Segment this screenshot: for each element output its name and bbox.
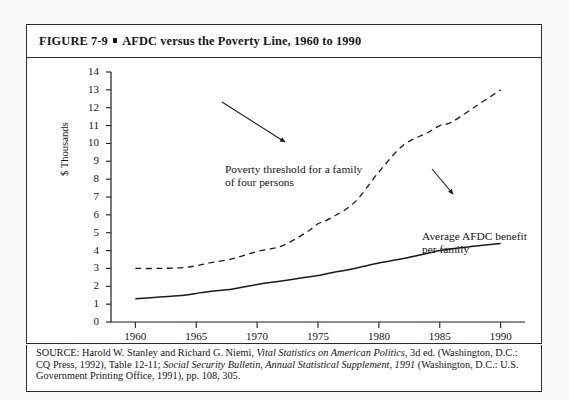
chart-area: $ Thousands 01234567891011121314 1960196… <box>27 58 541 343</box>
leader-poverty-annotation <box>222 102 285 142</box>
x-tick-label: 1965 <box>174 330 218 342</box>
annotation-afdc-line2: per family <box>422 243 527 256</box>
figure-container: FIGURE 7-9AFDC versus the Poverty Line, … <box>26 24 542 344</box>
annotation-afdc-line1: Average AFDC benefit <box>422 230 527 243</box>
figure-title-bar: FIGURE 7-9AFDC versus the Poverty Line, … <box>27 25 541 58</box>
y-tick-label: 9 <box>81 154 99 166</box>
figure-number: FIGURE 7-9 <box>39 34 108 48</box>
y-tick-label: 8 <box>81 172 99 184</box>
x-tick-label: 1980 <box>357 330 401 342</box>
source-line1-prefix: SOURCE: Harold W. Stanley and Richard G.… <box>36 347 257 358</box>
page-title: FIGURE 7-9AFDC versus the Poverty Line, … <box>39 34 361 49</box>
y-tick-label: 6 <box>81 208 99 220</box>
y-tick-label: 14 <box>81 65 99 77</box>
y-tick-label: 7 <box>81 190 99 202</box>
x-tick-label: 1970 <box>235 330 279 342</box>
y-tick-label: 4 <box>81 244 99 256</box>
source-line2-italic: Social Security Bulletin, Annual Statist… <box>163 359 339 370</box>
annotation-poverty: Poverty threshold for a family of four p… <box>225 163 362 190</box>
y-tick-label: 0 <box>81 315 99 327</box>
y-tick-label: 13 <box>81 83 99 95</box>
axes <box>111 72 525 322</box>
annotation-afdc: Average AFDC benefit per family <box>422 230 527 257</box>
y-axis-title: $ Thousands <box>59 160 70 176</box>
y-tick-label: 12 <box>81 101 99 113</box>
y-tick-label: 10 <box>81 136 99 148</box>
source-line1-italic: Vital Statistics on American Politics, <box>257 347 408 358</box>
y-tick-label: 3 <box>81 261 99 273</box>
x-tick-label: 1990 <box>479 330 523 342</box>
annotation-poverty-line2: of four persons <box>225 176 362 189</box>
y-tick-label: 11 <box>81 119 99 131</box>
leader-afdc-annotation <box>432 169 453 194</box>
y-tick-label: 2 <box>81 279 99 291</box>
x-tick-label: 1985 <box>418 330 462 342</box>
y-tick-label: 5 <box>81 226 99 238</box>
data-series <box>135 90 500 299</box>
annotation-poverty-line1: Poverty threshold for a family <box>225 163 362 176</box>
tick-marks <box>106 72 501 328</box>
source-line1-suffix: 3d ed. <box>407 347 435 358</box>
source-line3-italic: Supplement, 1991 <box>341 359 415 370</box>
x-tick-label: 1960 <box>113 330 157 342</box>
x-tick-label: 1975 <box>296 330 340 342</box>
square-bullet-icon <box>113 38 118 43</box>
y-tick-label: 1 <box>81 297 99 309</box>
chart-plot <box>27 58 543 345</box>
page-background: FIGURE 7-9AFDC versus the Poverty Line, … <box>0 0 569 400</box>
source-note: SOURCE: Harold W. Stanley and Richard G.… <box>26 345 542 392</box>
figure-title-text: AFDC versus the Poverty Line, 1960 to 19… <box>122 34 361 48</box>
